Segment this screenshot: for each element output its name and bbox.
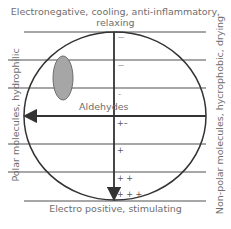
aldehydes-label: Aldehydes <box>79 101 128 112</box>
scale-mark-6: + + <box>117 174 133 183</box>
scale-mark-1: — <box>118 33 124 40</box>
diagram-svg: — — – +– + + + + + + <box>0 0 231 229</box>
aldehydes-ellipse <box>53 56 73 100</box>
scale-mark-3: – <box>118 90 121 97</box>
scale-mark-2: — <box>118 61 124 68</box>
bottom-axis-label: Electro positive, stimulating <box>0 203 231 214</box>
top-axis-label: Electronegative, cooling, anti-inflammat… <box>0 6 231 28</box>
left-axis-label: Polar molecules, hydrophilic <box>10 48 21 181</box>
scale-mark-7: + + + <box>117 190 142 199</box>
right-axis-label: Non-polar molecules, hycrophobic, drying <box>214 16 225 214</box>
scale-mark-5: + <box>117 146 124 155</box>
scale-mark-4: +– <box>117 119 128 128</box>
